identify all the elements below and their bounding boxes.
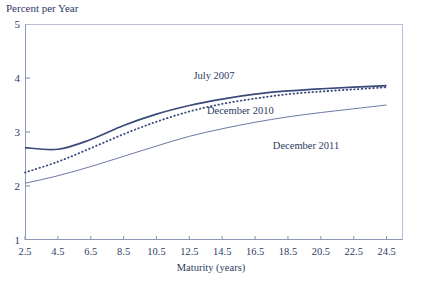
x-tick-label: 14.5 xyxy=(205,246,239,257)
x-tick-label: 24.5 xyxy=(370,246,404,257)
y-tick-label: 2 xyxy=(4,180,20,192)
chart-canvas xyxy=(0,0,422,282)
x-axis-title: Maturity (years) xyxy=(0,262,422,273)
yield-curve-chart: Percent per Year 12345 2.54.56.58.510.51… xyxy=(0,0,422,282)
x-tick-label: 6.5 xyxy=(74,246,108,257)
series-lines xyxy=(25,86,387,184)
y-tick-label: 3 xyxy=(4,126,20,138)
x-tick-label: 22.5 xyxy=(337,246,371,257)
x-tick-label: 20.5 xyxy=(304,246,338,257)
x-tick-label: 16.5 xyxy=(238,246,272,257)
x-tick-label: 12.5 xyxy=(172,246,206,257)
series-line xyxy=(25,87,387,172)
y-tick-label: 5 xyxy=(4,18,20,30)
series-label: July 2007 xyxy=(193,69,234,80)
x-tick-label: 8.5 xyxy=(107,246,141,257)
x-tick-label: 10.5 xyxy=(139,246,173,257)
x-tick-label: 4.5 xyxy=(41,246,75,257)
x-tick-label: 2.5 xyxy=(8,246,42,257)
y-tick-label: 1 xyxy=(4,234,20,246)
series-label: December 2011 xyxy=(273,139,339,150)
series-label: December 2010 xyxy=(207,105,274,116)
y-tick-label: 4 xyxy=(4,72,20,84)
x-tick-label: 18.5 xyxy=(271,246,305,257)
